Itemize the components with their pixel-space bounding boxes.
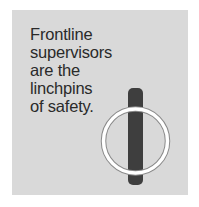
linchpin-icon	[0, 0, 199, 207]
